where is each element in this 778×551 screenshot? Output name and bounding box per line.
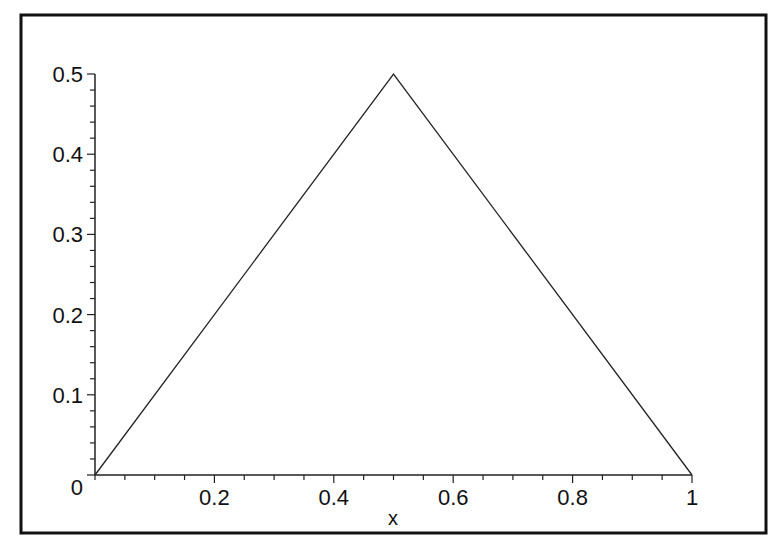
x-axis-label: x (388, 507, 398, 529)
y-tick-label: 0.1 (52, 383, 83, 408)
x-tick-label: 0.8 (557, 485, 588, 510)
series-line-triangle (95, 74, 692, 475)
tick-labels: 0.20.40.60.8100.10.20.30.40.5 (52, 62, 698, 510)
data-series (95, 74, 692, 475)
plot-frame (21, 15, 766, 533)
x-tick-label: 0.4 (319, 485, 350, 510)
y-tick-label: 0.5 (52, 62, 83, 87)
ticks (87, 74, 692, 483)
x-tick-label: 0.6 (438, 485, 469, 510)
y-tick-label: 0.2 (52, 303, 83, 328)
y-tick-label: 0 (71, 475, 83, 500)
y-tick-label: 0.3 (52, 222, 83, 247)
chart: 0.20.40.60.8100.10.20.30.40.5 x (0, 0, 778, 551)
x-tick-label: 1 (686, 485, 698, 510)
y-tick-label: 0.4 (52, 142, 83, 167)
x-tick-label: 0.2 (199, 485, 230, 510)
axes (95, 74, 692, 475)
